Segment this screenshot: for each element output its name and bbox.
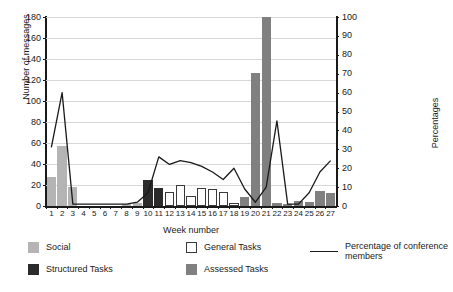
x-axis-tick-mark xyxy=(46,206,47,209)
x-axis-tick-mark xyxy=(121,206,122,209)
legend-swatch-percentage-line xyxy=(310,246,338,257)
x-axis-tick-mark xyxy=(325,206,326,209)
legend-swatch-structured-tasks xyxy=(28,264,39,275)
y-axis-left-tick-label: 120 xyxy=(1,76,41,85)
y-axis-left-tick-label: 60 xyxy=(1,139,41,148)
x-axis-tick-mark xyxy=(153,206,154,209)
y-axis-right-tick-label: 30 xyxy=(342,145,372,154)
y-axis-right-tick-mark xyxy=(336,168,339,169)
legend-item-percentage-line: Percentage of conference members xyxy=(310,241,453,261)
y-axis-right-tick-label: 10 xyxy=(342,183,372,192)
y-axis-right-tick-label: 40 xyxy=(342,126,372,135)
x-axis-tick-mark xyxy=(67,206,68,209)
y-axis-left-tick-label: 0 xyxy=(1,202,41,211)
y-axis-right-tick-label: 0 xyxy=(342,202,372,211)
y-axis-right-tick-mark xyxy=(336,93,339,94)
y-axis-right-tick-mark xyxy=(336,36,339,37)
chart-legend: Social Structured Tasks General Tasks As… xyxy=(28,242,448,288)
x-axis-tick-mark xyxy=(239,206,240,209)
y-axis-right-tick-label: 20 xyxy=(342,164,372,173)
legend-label-percentage-line: Percentage of conference members xyxy=(345,241,453,261)
legend-swatch-general-tasks xyxy=(186,242,197,253)
y-axis-right-tick-mark xyxy=(336,74,339,75)
percentage-line xyxy=(51,93,330,205)
line-series-layer xyxy=(46,17,336,206)
y-axis-right-tick-label: 70 xyxy=(342,69,372,78)
legend-swatch-social xyxy=(28,242,39,253)
x-axis-tick-mark xyxy=(175,206,176,209)
x-axis-title: Week number xyxy=(46,225,336,235)
y-axis-right-tick-label: 60 xyxy=(342,88,372,97)
legend-item-structured-tasks: Structured Tasks xyxy=(28,264,113,275)
x-axis-tick-mark xyxy=(57,206,58,209)
x-axis-tick-mark xyxy=(78,206,79,209)
legend-item-general-tasks: General Tasks xyxy=(186,242,261,253)
y-axis-right-tick-mark xyxy=(336,149,339,150)
x-axis-tick-mark xyxy=(229,206,230,209)
chart-container: Number of messages Percentages Week numb… xyxy=(0,0,453,292)
x-axis-tick-mark xyxy=(89,206,90,209)
legend-label-structured-tasks: Structured Tasks xyxy=(46,264,113,275)
legend-label-social: Social xyxy=(46,242,71,253)
legend-item-social: Social xyxy=(28,242,71,253)
x-axis-tick-mark xyxy=(272,206,273,209)
y-axis-right-tick-label: 90 xyxy=(342,31,372,40)
y-axis-left-tick-label: 160 xyxy=(1,34,41,43)
legend-label-assessed-tasks: Assessed Tasks xyxy=(204,264,268,275)
y-axis-right-title: Percentages xyxy=(430,63,440,183)
x-axis-tick-mark xyxy=(186,206,187,209)
y-axis-right-tick-label: 100 xyxy=(342,13,372,22)
legend-label-general-tasks: General Tasks xyxy=(204,242,261,253)
x-axis-tick-mark xyxy=(207,206,208,209)
x-axis-tick-mark xyxy=(218,206,219,209)
x-axis-tick-mark xyxy=(250,206,251,209)
legend-item-assessed-tasks: Assessed Tasks xyxy=(186,264,268,275)
x-axis-tick-mark xyxy=(282,206,283,209)
y-axis-left-tick-label: 180 xyxy=(1,13,41,22)
y-axis-right-tick-label: 50 xyxy=(342,107,372,116)
x-axis-tick-mark xyxy=(261,206,262,209)
y-axis-left-tick-label: 20 xyxy=(1,181,41,190)
x-axis-tick-mark xyxy=(304,206,305,209)
x-axis-tick-mark xyxy=(132,206,133,209)
y-axis-right-tick-mark xyxy=(336,17,339,18)
y-axis-left-tick-label: 140 xyxy=(1,55,41,64)
x-axis-tick-label: 27 xyxy=(323,209,339,218)
x-axis-tick-mark xyxy=(143,206,144,209)
x-axis-tick-mark xyxy=(315,206,316,209)
x-axis-tick-mark xyxy=(196,206,197,209)
y-axis-left-tick-label: 40 xyxy=(1,160,41,169)
x-axis-tick-mark xyxy=(293,206,294,209)
legend-swatch-assessed-tasks xyxy=(186,264,197,275)
y-axis-left-tick-label: 100 xyxy=(1,97,41,106)
plot-area: 020406080100120140160180 010203040506070… xyxy=(46,17,336,206)
y-axis-right-tick-label: 80 xyxy=(342,50,372,59)
x-axis-tick-mark xyxy=(110,206,111,209)
y-axis-right-tick-mark xyxy=(336,187,339,188)
x-axis-tick-mark xyxy=(100,206,101,209)
y-axis-right-tick-mark xyxy=(336,206,339,207)
y-axis-left-tick-label: 80 xyxy=(1,118,41,127)
y-axis-right-tick-mark xyxy=(336,112,339,113)
y-axis-right-tick-mark xyxy=(336,55,339,56)
x-axis-tick-mark xyxy=(164,206,165,209)
y-axis-right-tick-mark xyxy=(336,130,339,131)
